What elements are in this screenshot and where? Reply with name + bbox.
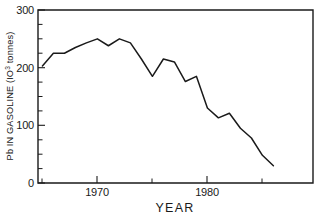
y-axis-title-suffix: tonnes) xyxy=(5,32,15,66)
y-axis-ticks xyxy=(38,10,45,183)
y-axis-title: Pb IN GASOLINE (IO3 tonnes) xyxy=(4,32,15,161)
svg-text:Pb IN GASOLINE (IO3 tonnes): Pb IN GASOLINE (IO3 tonnes) xyxy=(4,32,15,161)
y-tick-label-0: 0 xyxy=(28,177,34,189)
x-axis-title: YEAR xyxy=(156,201,195,215)
y-tick-label-300: 300 xyxy=(16,4,34,16)
y-tick-label-100: 100 xyxy=(16,119,34,131)
y-tick-label-200: 200 xyxy=(16,62,34,74)
plot-frame xyxy=(38,10,313,183)
y-tick-labels: 300 200 100 0 xyxy=(16,4,34,189)
line-chart: 300 200 100 0 1970 1980 YEAR Pb IN GASOL… xyxy=(0,0,320,217)
chart-figure: 300 200 100 0 1970 1980 YEAR Pb IN GASOL… xyxy=(0,0,320,217)
x-tick-labels: 1970 1980 xyxy=(85,186,219,198)
x-axis-ticks xyxy=(42,176,262,183)
x-tick-label-1980: 1980 xyxy=(195,186,219,198)
y-axis-title-prefix: Pb IN GASOLINE (IO xyxy=(5,70,15,161)
x-tick-label-1970: 1970 xyxy=(85,186,109,198)
data-series-line xyxy=(42,39,273,166)
